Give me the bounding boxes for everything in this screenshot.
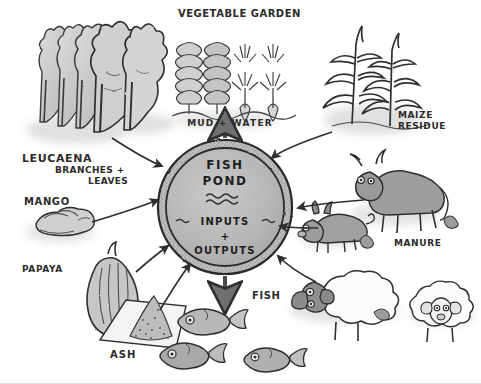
label-leaves: LEAVES	[88, 176, 128, 186]
label-manure: MANURE	[394, 238, 441, 248]
fish-1	[178, 309, 248, 335]
fish-harvest	[160, 309, 307, 372]
arrow-maize-to-pond	[272, 132, 332, 158]
label-mango: MANGO	[24, 196, 70, 207]
arrow-papaya-to-pond	[136, 246, 168, 272]
veg-cabbage-1	[176, 43, 203, 115]
label-mud-water: MUD + WATER	[172, 118, 288, 128]
arrow-leucaena-to-pond	[112, 138, 162, 166]
veg-root-2	[260, 44, 286, 121]
diagram-canvas: VEGETABLE GARDEN MUD + WATER MAIZE RESID…	[0, 0, 481, 384]
label-maize-residue: MAIZE RESIDUE	[398, 110, 446, 132]
vegetable-garden	[172, 43, 296, 122]
fish-3	[244, 348, 307, 372]
arrow-ash-to-pond	[160, 264, 190, 310]
pond-label-fish: FISH	[170, 158, 280, 172]
label-ash: ASH	[110, 349, 136, 360]
veg-root-1	[232, 44, 258, 121]
arrow-mango-to-pond	[92, 200, 158, 222]
pond-label-plus: +	[170, 231, 280, 242]
sheep	[292, 271, 399, 341]
veg-cabbage-2	[204, 43, 231, 115]
pond-label-pond: POND	[170, 174, 280, 188]
fish-2	[160, 343, 227, 369]
sheep-2	[410, 281, 474, 342]
mango-fruit	[36, 208, 94, 236]
label-branches: BRANCHES +	[55, 165, 125, 175]
label-leucaena: LEUCAENA	[22, 152, 92, 165]
hand-drawn-illustration	[0, 0, 481, 384]
label-vegetable-garden: VEGETABLE GARDEN	[178, 8, 274, 20]
arrow-sheep-to-pond	[278, 256, 316, 282]
label-papaya: PAPAYA	[22, 264, 63, 274]
label-maize-line1: MAIZE	[398, 110, 433, 120]
label-fish: FISH	[252, 290, 281, 301]
pond-label-inputs: INPUTS	[170, 216, 280, 227]
pond-label-outputs: OUTPUTS	[170, 245, 280, 256]
label-maize-line2: RESIDUE	[398, 121, 446, 131]
